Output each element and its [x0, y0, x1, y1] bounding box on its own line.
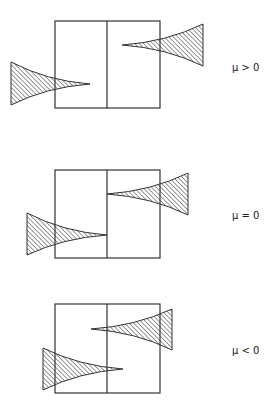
panel-mu-zero: μ = 0: [27, 170, 259, 258]
right-hatched-wedge: [122, 24, 203, 66]
right-hatched-wedge: [91, 309, 172, 350]
panel-mu-negative: μ < 0: [43, 304, 259, 393]
right-hatched-wedge: [107, 173, 188, 215]
left-hatched-wedge: [11, 62, 90, 105]
mu-condition-label: μ > 0: [232, 62, 259, 73]
wedge-diagram: μ > 0 μ = 0 μ < 0: [0, 0, 277, 413]
mu-condition-label: μ = 0: [232, 210, 259, 221]
left-hatched-wedge: [27, 213, 107, 255]
mu-condition-label: μ < 0: [232, 345, 259, 356]
panel-mu-positive: μ > 0: [11, 21, 259, 108]
left-hatched-wedge: [43, 348, 123, 390]
